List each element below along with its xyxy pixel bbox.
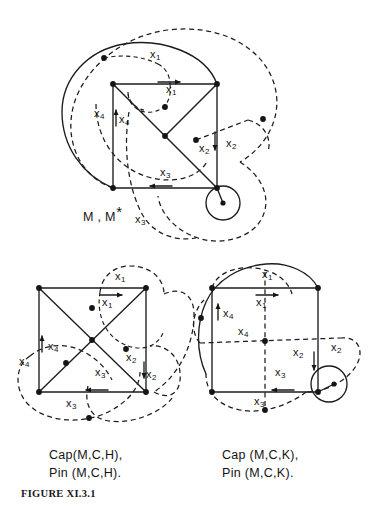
br-vertex-tr [315, 285, 321, 291]
bl-vertex-tr [143, 285, 149, 291]
label-top-x3-dashed: x3 [135, 213, 146, 227]
top-vertex-tr [214, 81, 220, 87]
label-top-x2-edge: x2 [226, 137, 237, 151]
label-top-x4-dashed: x4 [94, 107, 105, 121]
br-vertex-br [315, 389, 321, 395]
top-vertex-bl [110, 185, 116, 191]
label-top-x4-edge: x4 [119, 113, 130, 127]
top-x1-dashed-arc-tail [158, 64, 170, 84]
bottom-left-diagram-group [18, 266, 194, 422]
label-bl-x2-dashed: x2 [126, 351, 137, 365]
label-br-x4-dashed: x4 [238, 325, 249, 339]
label-br-x1-edge: x1 [256, 296, 267, 310]
bl-vertex-bl [36, 389, 42, 395]
label-bl-x4-edge: x4 [48, 340, 59, 354]
top-outer-solid-curve [62, 43, 217, 188]
br-top-dashed-arc [212, 268, 292, 294]
top-vertex-upper-mid [162, 104, 168, 110]
bl-vertex-left-mid [63, 360, 69, 366]
bl-top-dashed-loop [100, 266, 164, 294]
figure-drawing-canvas [0, 0, 386, 523]
label-bl-x1-edge: x1 [102, 296, 113, 310]
bl-left-dashed-loop-bottom [18, 356, 140, 420]
caption-top-diagram: M , M* [83, 203, 122, 224]
label-br-x2-edge: x2 [293, 346, 304, 360]
label-br-x2-dashed: x2 [331, 341, 342, 355]
top-vertex-tl [110, 81, 116, 87]
top-vertex-br [214, 185, 220, 191]
label-bl-x4-dashed: x4 [19, 355, 30, 369]
figure-number-label: FIGURE XI.3.1 [21, 488, 96, 499]
figure-root: x1 x1 x4 x4 x2 x2 x3 x3 x1 x1 x4 x4 x2 x… [0, 0, 386, 523]
caption-bottom-left-line2: Pin (M,C,H). [49, 466, 121, 480]
label-top-x2-dashed: x2 [199, 142, 210, 156]
label-top-x1-dashed: x1 [150, 48, 161, 62]
top-vertex-left-arc [101, 55, 107, 61]
bl-vertex-tl [36, 285, 42, 291]
caption-bottom-left-line1: Cap(M,C,H), [49, 448, 122, 462]
label-br-x1-dashed: x1 [262, 268, 273, 282]
br-vertex-left-outer [198, 315, 204, 321]
label-bl-x3-edge: x3 [95, 366, 106, 380]
bottom-right-diagram-group [194, 264, 360, 413]
bl-vertex-upper-mid [89, 305, 95, 311]
top-right-dashed-curve [158, 162, 266, 241]
top-circle-center-dot [220, 200, 225, 205]
label-bl-x1-dashed: x1 [115, 270, 126, 284]
br-circle-center-dot [331, 381, 336, 386]
br-horizontal-midline [200, 338, 340, 343]
top-vertex-center [162, 133, 168, 139]
bl-vertex-bottom-outer [86, 415, 92, 421]
label-br-x3-dashed: x3 [254, 395, 265, 409]
label-bl-x3-dashed: x3 [66, 397, 77, 411]
label-br-x4-edge: x4 [223, 307, 234, 321]
bl-top-dashed-loop-right [154, 291, 194, 392]
caption-bottom-right-line2: Pin (M,C,K). [222, 466, 294, 480]
label-top-x3-edge: x3 [160, 166, 171, 180]
br-vertex-tl [209, 285, 215, 291]
br-small-circle [311, 366, 347, 402]
label-bl-x2-edge: x2 [146, 368, 157, 382]
br-vertex-bl [209, 389, 215, 395]
top-vertex-right-outer [260, 116, 266, 122]
bl-vertex-center [89, 337, 95, 343]
caption-bottom-right-line1: Cap (M,C,K), [222, 448, 299, 462]
bl-vertex-br [143, 389, 149, 395]
br-vertex-center [262, 338, 268, 344]
label-top-x1-edge: x1 [166, 83, 177, 97]
top-x2-dashed-curve [196, 120, 248, 140]
label-br-x3-edge: x3 [275, 366, 286, 380]
